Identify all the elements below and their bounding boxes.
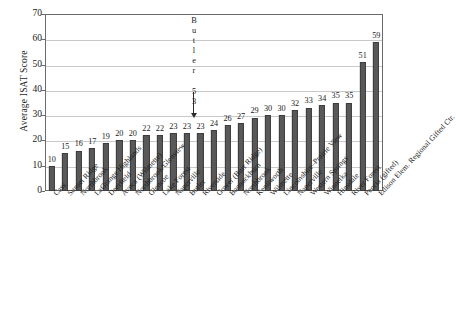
bar-value-label: 23: [196, 123, 204, 131]
bar-value-label: 17: [88, 138, 96, 146]
bar-value-label: 29: [250, 107, 258, 115]
bar-value-label: 20: [115, 130, 123, 138]
bar-slot[interactable]: 30: [275, 14, 289, 191]
y-tick-label: 70: [20, 9, 42, 19]
bar-slot[interactable]: 24: [207, 14, 221, 191]
bar-slot[interactable]: 26: [221, 14, 235, 191]
bar-value-label: 34: [318, 95, 326, 103]
bar-slot[interactable]: 15: [59, 14, 73, 191]
bar-slot[interactable]: 51: [356, 14, 370, 191]
x-axis-labels: CassSunset RidgeNorthbrookLaGrange Highl…: [45, 192, 383, 329]
butler-annotation-arrow: [193, 92, 194, 114]
bar-value-label: 30: [277, 105, 285, 113]
annotation-char: r: [187, 66, 201, 76]
bar-slot[interactable]: 30: [261, 14, 275, 191]
bar-value-label: 51: [359, 52, 367, 60]
annotation-char: t: [187, 36, 201, 46]
bar-value-label: 35: [332, 92, 340, 100]
y-tick-label: 10: [20, 161, 42, 171]
bar-value-label: 33: [305, 97, 313, 105]
bar-slot[interactable]: 10: [45, 14, 59, 191]
bar-value-label: 23: [183, 123, 191, 131]
annotation-char: 3: [187, 97, 201, 107]
bar-slot[interactable]: 32: [288, 14, 302, 191]
annotation-char: 5: [187, 87, 201, 97]
x-tick-label: Edison Elem. Regional Gifted Ctr.: [377, 113, 456, 197]
bar-value-label: 27: [237, 113, 245, 121]
annotation-char: B: [187, 16, 201, 26]
bar-slot[interactable]: 16: [72, 14, 86, 191]
bar-value-label: 20: [129, 130, 137, 138]
y-tick-label: 40: [20, 85, 42, 95]
annotation-char: e: [187, 56, 201, 66]
bar-value-label: 15: [61, 143, 69, 151]
bar-value-label: 24: [210, 120, 218, 128]
annotation-char: l: [187, 46, 201, 56]
annotation-char: [187, 77, 201, 87]
y-tick-label: 20: [20, 135, 42, 145]
bar-value-label: 22: [156, 125, 164, 133]
bar-value-label: 32: [291, 100, 299, 108]
bar-value-label: 26: [223, 115, 231, 123]
bar-value-label: 35: [345, 92, 353, 100]
bar-slot[interactable]: 19: [99, 14, 113, 191]
bar-value-label: 16: [75, 140, 83, 148]
y-tick-label: 0: [20, 186, 42, 196]
bar-value-label: 10: [48, 156, 56, 164]
bar-value-label: 30: [264, 105, 272, 113]
y-tick-label: 50: [20, 60, 42, 70]
y-tick-label: 30: [20, 110, 42, 120]
bar-value-label: 23: [169, 123, 177, 131]
y-tick-label: 60: [20, 34, 42, 44]
bar-value-label: 59: [372, 32, 380, 40]
bar[interactable]: [360, 62, 366, 191]
annotation-char: u: [187, 26, 201, 36]
butler-annotation-text: Butler 53: [187, 16, 201, 107]
bar-value-label: 19: [102, 133, 110, 141]
bar-value-label: 22: [142, 125, 150, 133]
